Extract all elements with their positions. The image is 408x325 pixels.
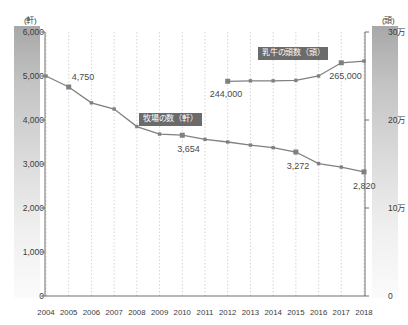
data-point-2017 (339, 60, 344, 65)
data-point-2018 (362, 59, 365, 62)
data-point-2006 (90, 101, 93, 104)
data-point-2016 (317, 74, 320, 77)
legend-callout-cattle: 乳牛の頭数（頭） (258, 47, 328, 60)
point-label-farms-2018: 2,820 (353, 182, 376, 191)
data-point-2016 (317, 162, 320, 165)
data-point-2015 (293, 150, 298, 155)
point-label-cattle-2017: 265,000 (329, 72, 362, 81)
data-point-2005 (66, 85, 71, 90)
data-point-2010 (180, 133, 185, 138)
legend-callout-farms: 牧場の数（軒） (139, 113, 202, 126)
data-point-2018 (362, 169, 367, 174)
point-label-farms-2015: 3,272 (287, 162, 310, 171)
point-label-cattle-2012: 244,000 (210, 90, 243, 99)
plot-area (0, 0, 408, 325)
data-point-2015 (294, 79, 297, 82)
point-label-farms-2005: 4,750 (72, 73, 95, 82)
data-point-2014 (271, 79, 274, 82)
data-point-2009 (158, 132, 161, 135)
data-point-2004 (44, 74, 47, 77)
data-point-2011 (203, 138, 206, 141)
data-point-2013 (249, 79, 252, 82)
data-point-2012 (226, 140, 229, 143)
data-point-2012 (225, 79, 230, 84)
data-point-2017 (340, 165, 343, 168)
point-label-farms-2010: 3,654 (177, 145, 200, 154)
data-point-2013 (249, 143, 252, 146)
data-point-2007 (112, 107, 115, 110)
chart-container: (軒) (頭) 6,0005,0004,0003,0002,0001,0000 … (0, 0, 408, 325)
data-point-2014 (271, 146, 274, 149)
